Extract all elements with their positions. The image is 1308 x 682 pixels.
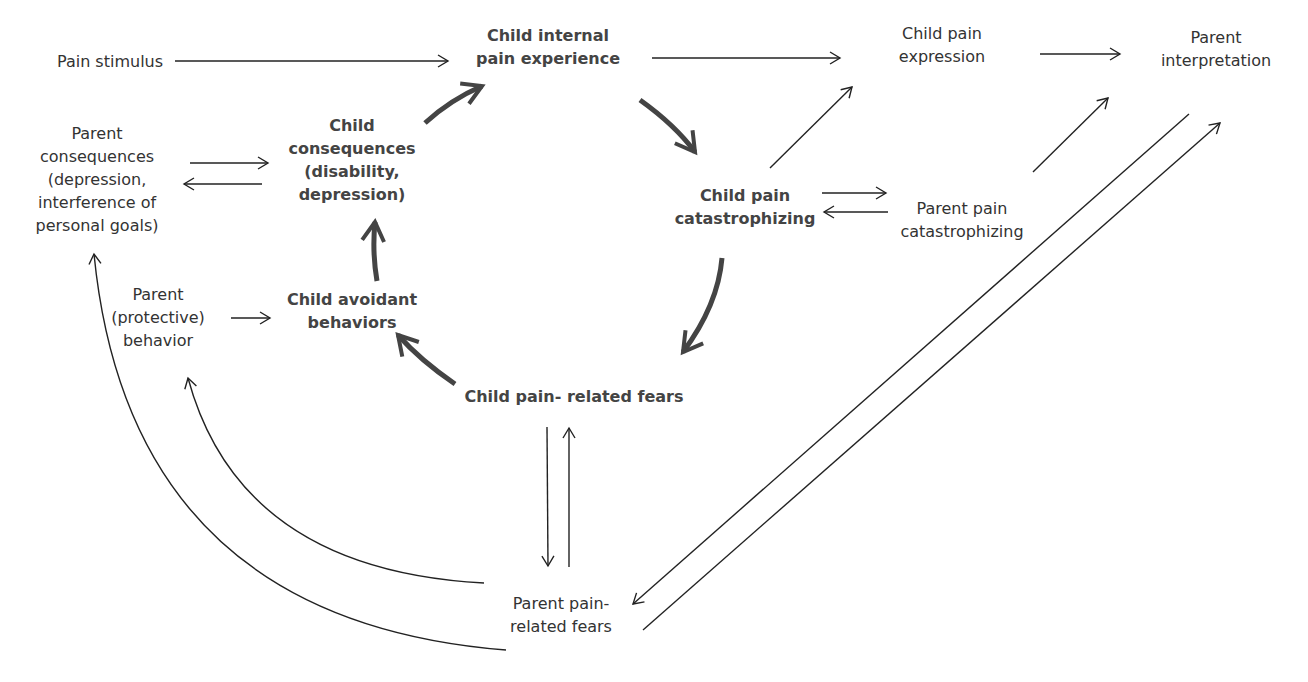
node-label: Child pain [899, 22, 985, 45]
node-child-pain-related-fears: Child pain- related fears [464, 385, 683, 408]
thick-arrow-internal-to-catastrophizing [640, 100, 695, 152]
node-label: (depression, [36, 168, 159, 191]
node-label: consequences [288, 137, 415, 160]
node-label: pain experience [476, 47, 620, 70]
node-parent-consequences: Parent consequences (depression, interfe… [36, 122, 159, 237]
node-label: consequences [36, 145, 159, 168]
node-label: Child pain [675, 184, 816, 207]
arrow-child-fears-to-parent-fears [547, 427, 548, 566]
node-label: behaviors [287, 311, 417, 334]
node-label: Child internal [476, 24, 620, 47]
node-label: Parent pain [900, 197, 1023, 220]
thick-arrow-avoidant-to-consequences [374, 222, 377, 281]
thick-arrow-child-fears-to-avoidant [398, 335, 455, 384]
node-label: (protective) [111, 306, 205, 329]
node-label: behavior [111, 329, 205, 352]
node-child-internal-pain-experience: Child internal pain experience [476, 24, 620, 70]
node-parent-interpretation: Parent interpretation [1161, 26, 1271, 72]
node-parent-pain-related-fears: Parent pain- related fears [510, 592, 612, 638]
thick-arrow-consequences-to-internal [425, 86, 482, 123]
node-child-pain-catastrophizing: Child pain catastrophizing [675, 184, 816, 230]
node-label: catastrophizing [675, 207, 816, 230]
node-label: Parent pain- [510, 592, 612, 615]
node-label: personal goals) [36, 214, 159, 237]
node-label: catastrophizing [900, 220, 1023, 243]
arrow-catastrophizing-to-expression [770, 87, 852, 168]
node-label: Child pain- related fears [464, 385, 683, 408]
node-label: Pain stimulus [57, 50, 163, 73]
node-label: (disability, [288, 160, 415, 183]
node-child-avoidant-behaviors: Child avoidant behaviors [287, 288, 417, 334]
node-label: Parent [36, 122, 159, 145]
node-label: expression [899, 45, 985, 68]
node-label: related fears [510, 615, 612, 638]
node-label: Child avoidant [287, 288, 417, 311]
node-child-consequences: Child consequences (disability, depressi… [288, 114, 415, 206]
arrow-parent-catastrophizing-to-interpretation [1033, 98, 1108, 172]
node-parent-protective-behavior: Parent (protective) behavior [111, 283, 205, 352]
node-pain-stimulus: Pain stimulus [57, 50, 163, 73]
node-label: Parent [1161, 26, 1271, 49]
node-label: interference of [36, 191, 159, 214]
thick-arrow-catastrophizing-to-child-fears [683, 258, 722, 352]
node-label: interpretation [1161, 49, 1271, 72]
node-label: depression) [288, 183, 415, 206]
node-label: Parent [111, 283, 205, 306]
node-child-pain-expression: Child pain expression [899, 22, 985, 68]
node-label: Child [288, 114, 415, 137]
node-parent-pain-catastrophizing: Parent pain catastrophizing [900, 197, 1023, 243]
